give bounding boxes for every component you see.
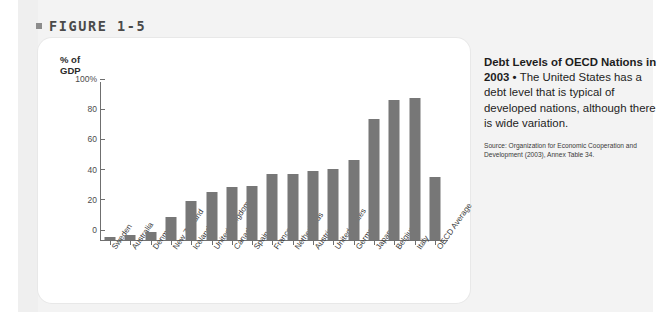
bar-group: Canada (222, 89, 242, 240)
figure-page: FIGURE 1-5 % of GDP 020406080100% Sweden… (0, 0, 670, 333)
bar (206, 192, 217, 240)
y-axis-tick-label: 60 (88, 134, 97, 144)
bar-group: Australia (120, 89, 140, 240)
square-bullet-icon (36, 23, 42, 29)
bar-group: United Kingdom (201, 89, 221, 240)
x-axis-tick-label: Australia (130, 246, 137, 251)
x-axis-tick-label: Italy (415, 246, 422, 251)
bar-group: Iceland (181, 89, 201, 240)
y-axis-tick-mark (100, 79, 105, 80)
x-axis-tick-label: Canada (232, 246, 239, 251)
bar-group: Denmark (141, 89, 161, 240)
y-axis-tick: 20 (88, 195, 100, 205)
bar (186, 201, 197, 240)
bar-series: SwedenAustraliaDenmarkNew ZealandIceland… (100, 89, 445, 240)
bar-group: Spain (242, 89, 262, 240)
plot-area: 020406080100% SwedenAustraliaDenmarkNew … (100, 89, 445, 240)
bar-group: Austria (303, 89, 323, 240)
bar (409, 98, 420, 240)
bar-group: Italy (404, 89, 424, 240)
bar (166, 217, 177, 240)
y-axis-tick-label: 80 (88, 104, 97, 114)
y-axis-tick: 40 (88, 165, 100, 175)
caption-separator: • (509, 71, 519, 83)
bar-group: Belgium (384, 89, 404, 240)
figure-header: FIGURE 1-5 (36, 18, 146, 34)
x-axis-tick-label: France (272, 246, 279, 251)
bar-group: Germany (344, 89, 364, 240)
x-axis-tick-label: Japan (374, 246, 381, 251)
caption-column: Debt Levels of OECD Nations in 2003 • Th… (484, 55, 659, 159)
y-axis-tick-label: 40 (88, 165, 97, 175)
x-axis-tick-label: New Zealand (171, 246, 178, 251)
x-axis-tick-label: OECD Average (435, 246, 442, 251)
x-axis-tick-label: Belgium (394, 246, 401, 251)
figure-card: % of GDP 020406080100% SwedenAustraliaDe… (38, 38, 470, 303)
bar (226, 187, 237, 240)
caption-text: Debt Levels of OECD Nations in 2003 • Th… (484, 55, 659, 131)
page-backdrop-left-strip (18, 0, 38, 312)
x-axis-tick-label: Austria (313, 246, 320, 251)
bar-group: Netherlands (283, 89, 303, 240)
y-axis-tick-label: 100% (75, 74, 97, 84)
x-axis-tick-label: Germany (354, 246, 361, 251)
y-axis-tick: 100% (75, 74, 100, 84)
x-axis-tick-label: Spain (252, 246, 259, 251)
figure-label: FIGURE 1-5 (49, 18, 146, 34)
bar (267, 174, 278, 240)
bar (348, 160, 359, 240)
bar (429, 177, 440, 240)
bar (368, 119, 379, 240)
y-axis-tick: 80 (88, 104, 100, 114)
bar-group: United States (323, 89, 343, 240)
y-axis-tick-label: 20 (88, 195, 97, 205)
bar (308, 171, 319, 240)
y-axis-tick: 0 (92, 225, 100, 235)
bar (247, 186, 258, 240)
x-axis-tick-label: Denmark (151, 246, 158, 251)
bar-chart: % of GDP 020406080100% SwedenAustraliaDe… (38, 38, 470, 303)
x-axis-tick-label: United States (333, 246, 340, 251)
bar (389, 100, 400, 240)
y-axis-title: % of GDP (60, 54, 81, 76)
bar-group: Sweden (100, 89, 120, 240)
caption-source: Source: Organization for Economic Cooper… (484, 142, 659, 159)
bar-group: New Zealand (161, 89, 181, 240)
bar-group: OECD Average (425, 89, 445, 240)
bar (328, 169, 339, 240)
x-axis-tick-label: Netherlands (293, 246, 300, 251)
x-axis-tick-label: United Kingdom (212, 246, 219, 251)
bar (287, 174, 298, 240)
x-axis-tick-label: Sweden (110, 246, 117, 251)
bar-group: Japan (364, 89, 384, 240)
y-axis-tick-label: 0 (92, 225, 97, 235)
x-axis-tick-label: Iceland (191, 246, 198, 251)
bar-group: France (262, 89, 282, 240)
y-axis-tick: 60 (88, 134, 100, 144)
